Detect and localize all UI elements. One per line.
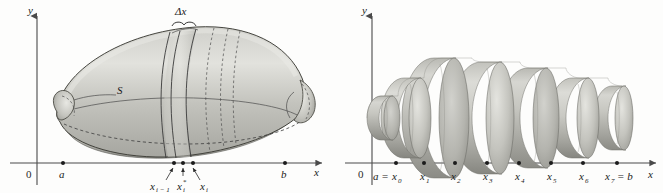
tick-dot-x7 (615, 161, 619, 165)
svg-text:6: 6 (585, 177, 589, 185)
leader-xi (193, 168, 200, 180)
svg-text:= b: = b (617, 170, 633, 182)
svg-text:x: x (604, 170, 610, 182)
tick-dot-b (283, 161, 287, 165)
svg-text:x: x (149, 180, 155, 192)
tick-dot-x1 (422, 161, 426, 165)
svg-text:4: 4 (521, 177, 525, 185)
svg-text:7: 7 (611, 177, 615, 185)
right-tick-label-x0: a = x 0 (373, 170, 402, 185)
svg-text:2: 2 (457, 177, 461, 185)
right-tick-label-x7: x 7 = b (604, 170, 633, 185)
disk-stack (367, 58, 633, 178)
svg-text:*: * (183, 178, 187, 186)
svg-text:x: x (199, 180, 205, 192)
svg-text:i − 1: i − 1 (156, 186, 170, 193)
left-tick-label-xi: x i (199, 180, 208, 193)
svg-text:i: i (206, 186, 208, 193)
tick-dot-x2 (453, 161, 457, 165)
right-tick-label-x4: x 4 (514, 170, 525, 185)
svg-text:0: 0 (398, 177, 402, 185)
left-tick-label-xi-1: x i − 1 (149, 180, 170, 193)
delta-x-annotation: Δx (172, 5, 196, 26)
tick-dot-x3 (485, 161, 489, 165)
tick-dot-x6 (581, 161, 585, 165)
tick-dot-x4 (517, 161, 521, 165)
right-panel: 0 y x a = x 0 x 1 x 2 x 3 x (345, 4, 656, 185)
tick-dot-x5 (549, 161, 553, 165)
left-x-axis-label: x (313, 166, 319, 178)
left-panel: Δx S 0 y x a b x i − 1 (10, 4, 322, 193)
left-tick-label-a: a (59, 168, 65, 180)
svg-text:a =: a = (373, 170, 389, 182)
tick-dot-xi-star (181, 161, 185, 165)
left-tick-label-b: b (281, 168, 287, 180)
right-tick-label-x5: x 5 (546, 170, 557, 185)
tick-dot-a (61, 161, 65, 165)
svg-text:x: x (482, 170, 488, 182)
left-y-axis-label: y (27, 4, 33, 16)
solid-label: S (117, 84, 123, 96)
left-tick-label-xi-star: x i * (176, 178, 187, 193)
right-y-axis-label: y (361, 4, 367, 16)
svg-text:i: i (183, 186, 185, 193)
delta-x-brace (172, 22, 196, 26)
svg-text:3: 3 (488, 177, 493, 185)
delta-x-label: Δx (174, 5, 186, 17)
svg-text:x: x (578, 170, 584, 182)
svg-text:x: x (176, 180, 182, 192)
svg-text:x: x (450, 170, 456, 182)
svg-text:5: 5 (553, 177, 557, 185)
figure-root: Δx S 0 y x a b x i − 1 (0, 0, 663, 193)
svg-text:x: x (546, 170, 552, 182)
tick-dot-xi-1 (172, 161, 176, 165)
tick-dot-xi (191, 161, 195, 165)
svg-text:1: 1 (426, 177, 430, 185)
left-origin-label: 0 (26, 168, 32, 180)
svg-text:x: x (391, 170, 397, 182)
right-origin-label: 0 (358, 168, 364, 180)
disk-7 (594, 86, 633, 150)
right-tick-label-x6: x 6 (578, 170, 589, 185)
tick-dot-x0 (394, 161, 398, 165)
svg-text:x: x (514, 170, 520, 182)
svg-text:x: x (419, 170, 425, 182)
solid-body (53, 27, 315, 158)
leader-xi-1 (166, 168, 173, 180)
right-x-axis-label: x (647, 168, 653, 180)
figure-canvas: Δx S 0 y x a b x i − 1 (0, 0, 663, 193)
